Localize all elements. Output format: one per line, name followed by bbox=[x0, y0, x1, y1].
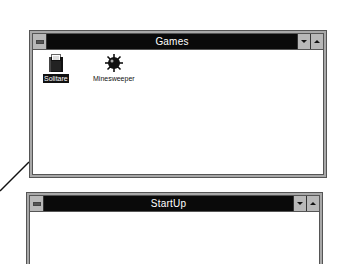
games-titlebar[interactable]: Games bbox=[33, 34, 323, 50]
maximize-icon bbox=[310, 202, 316, 205]
startup-client-area bbox=[30, 212, 319, 264]
program-item-minesweeper[interactable]: Minesweeper bbox=[92, 53, 136, 83]
system-menu-button[interactable] bbox=[30, 196, 44, 211]
system-menu-icon bbox=[36, 40, 44, 44]
program-label: Solitare bbox=[43, 74, 69, 83]
solitaire-icon bbox=[48, 53, 64, 73]
minesweeper-icon bbox=[104, 53, 124, 73]
system-menu-icon bbox=[33, 202, 41, 206]
window-title: StartUp bbox=[44, 196, 293, 211]
maximize-button[interactable] bbox=[306, 196, 319, 211]
minimize-icon bbox=[297, 202, 303, 205]
games-client-area: Solitare Minesweeper bbox=[33, 50, 323, 174]
games-window: Games Solitare bbox=[29, 30, 327, 178]
window-title: Games bbox=[47, 34, 297, 49]
maximize-icon bbox=[314, 40, 320, 43]
system-menu-button[interactable] bbox=[33, 34, 47, 49]
minimize-button[interactable] bbox=[297, 34, 310, 49]
startup-titlebar[interactable]: StartUp bbox=[30, 196, 319, 212]
maximize-button[interactable] bbox=[310, 34, 323, 49]
program-label: Minesweeper bbox=[92, 74, 136, 83]
program-item-solitaire[interactable]: Solitare bbox=[43, 53, 69, 83]
minimize-button[interactable] bbox=[293, 196, 306, 211]
startup-window: StartUp bbox=[26, 192, 323, 264]
minimize-icon bbox=[301, 40, 307, 43]
